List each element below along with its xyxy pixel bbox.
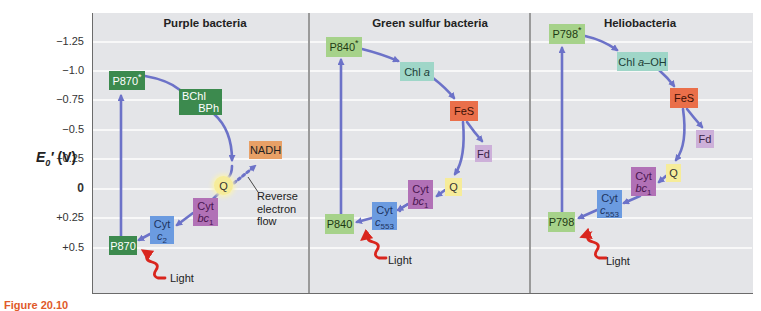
fd-label: Fd — [699, 133, 712, 145]
light-label: Light — [388, 254, 412, 267]
cyt-bc-label: bc — [635, 182, 647, 194]
cyt-bc-label: bc — [197, 212, 209, 224]
electron-path — [579, 210, 597, 218]
electron-path — [659, 70, 674, 86]
quinone-label: Q — [219, 180, 228, 192]
cyt-subscript: 2 — [163, 236, 167, 245]
cyt-bc1-box: Cyt bc1 — [193, 198, 218, 226]
p798-excited-label: P798 — [552, 28, 578, 40]
reverse-electron-flow-label: Reverse electron flow — [257, 190, 298, 228]
electron-path — [357, 218, 372, 222]
p840-ground-label: P840 — [327, 218, 353, 230]
fes-label: FeS — [674, 92, 694, 104]
cyt-label: Cyt — [601, 192, 618, 204]
bchl-bph-box: BChl BPh — [179, 89, 222, 115]
fes-label: FeS — [454, 105, 474, 117]
electron-path — [433, 78, 454, 98]
light-label: Light — [606, 255, 630, 268]
electron-path — [177, 213, 193, 225]
cyt-c553-box: Cyt c553 — [597, 190, 622, 218]
electron-path — [659, 176, 666, 182]
electron-path — [214, 114, 232, 160]
excited-star: * — [138, 72, 142, 82]
electron-path — [624, 196, 640, 203]
cyt-bc-label: bc — [412, 195, 424, 207]
electron-path — [687, 109, 702, 127]
cyt-subscript: 1 — [424, 201, 428, 210]
electron-path — [145, 76, 180, 90]
p840-excited-label: P840 — [329, 41, 355, 53]
p870-excited-box: P870* — [109, 71, 145, 90]
reverse-electron-flow-arrow — [234, 166, 255, 183]
cyt-bc1-box: Cyt bc1 — [408, 180, 433, 209]
cyt-subscript: 1 — [647, 188, 651, 197]
electron-path — [676, 109, 684, 160]
cyt-c553-box: Cyt c553 — [372, 202, 397, 230]
cyt-subscript: 553 — [606, 210, 619, 219]
cyt-subscript: 553 — [381, 222, 394, 231]
quinone-q-box: Q — [214, 176, 233, 195]
annotation-line: flow — [257, 215, 298, 228]
light-arrow — [364, 234, 386, 258]
chl-a-oh-box: Chl a–OH — [617, 52, 668, 71]
electron-path — [585, 36, 617, 50]
light-label: Light — [170, 272, 194, 285]
fes-box: FeS — [450, 101, 478, 121]
chl-oh-suffix: –OH — [644, 56, 667, 68]
electron-path — [467, 122, 482, 141]
fes-box: FeS — [670, 88, 698, 108]
p870-excited-label: P870 — [112, 75, 138, 87]
chl-a-italic: a — [424, 66, 430, 78]
p870-ground-box: P870 — [109, 236, 137, 255]
electron-path — [228, 166, 232, 178]
quinone-q-box: Q — [445, 178, 462, 196]
figure-caption: Figure 20.10 — [4, 299, 68, 311]
p798-excited-box: P798* — [549, 24, 585, 44]
electron-path — [362, 49, 398, 61]
nadh-box: NADH — [249, 141, 282, 159]
light-arrow — [584, 234, 606, 258]
nadh-label: NADH — [250, 144, 281, 156]
p840-ground-box: P840 — [325, 214, 354, 234]
electron-path — [139, 234, 150, 240]
quinone-label: Q — [449, 181, 458, 193]
excited-star: * — [578, 25, 582, 35]
bph-label: BPh — [179, 102, 222, 114]
fd-label: Fd — [477, 148, 490, 160]
electron-path — [437, 190, 445, 196]
p798-ground-box: P798 — [548, 212, 575, 232]
fd-box: Fd — [475, 145, 492, 162]
annotation-line: electron — [257, 203, 298, 216]
light-arrow — [145, 252, 165, 278]
p870-ground-label: P870 — [110, 240, 136, 252]
cyt-bc1-box: Cyt bc1 — [631, 167, 656, 196]
cyt-label: Cyt — [412, 183, 429, 195]
cyt-label: Cyt — [154, 218, 171, 230]
quinone-label: Q — [669, 167, 678, 179]
cyt-label: Cyt — [376, 204, 393, 216]
quinone-q-box: Q — [666, 164, 681, 182]
annotation-line: Reverse — [257, 190, 298, 203]
bchl-label: BChl — [179, 90, 222, 102]
cyt-subscript: 1 — [209, 218, 213, 227]
electron-path — [398, 204, 408, 210]
cyt-label: Cyt — [197, 200, 214, 212]
chl-label: Chl — [404, 66, 424, 78]
chl-label: Chl — [618, 56, 638, 68]
cyt-label: Cyt — [635, 170, 652, 182]
cyt-c2-box: Cyt c2 — [150, 216, 174, 244]
electron-path — [455, 122, 464, 174]
p840-excited-box: P840* — [326, 37, 362, 57]
p798-ground-label: P798 — [549, 216, 575, 228]
chl-a-box: Chl a — [400, 62, 434, 81]
fd-box: Fd — [696, 130, 714, 148]
excited-star: * — [355, 38, 359, 48]
